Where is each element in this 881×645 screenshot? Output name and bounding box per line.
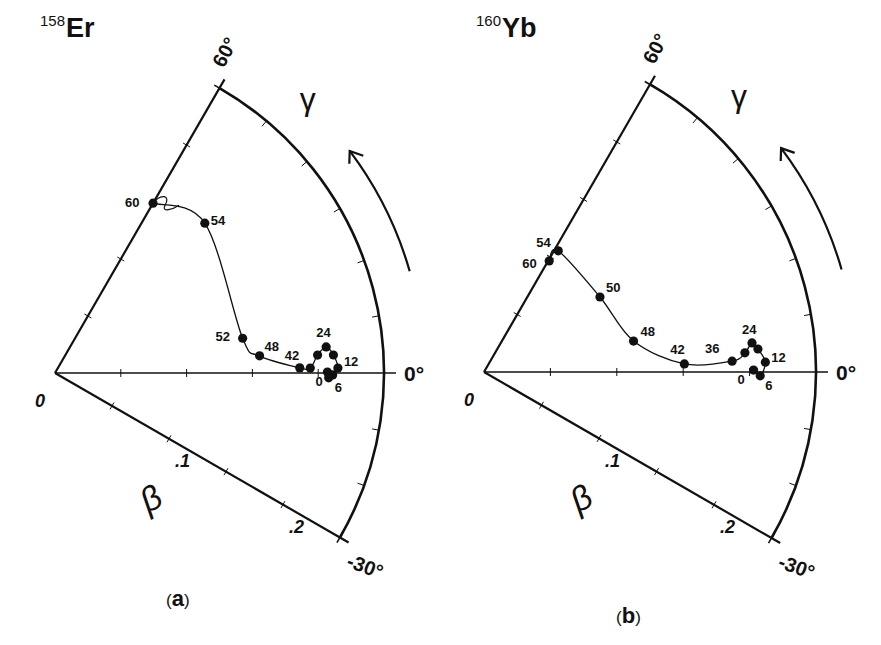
- gamma-direction-arrow: [781, 148, 841, 269]
- spin-label: 12: [344, 354, 358, 369]
- origin-label: 0: [35, 391, 45, 411]
- data-point: [322, 342, 331, 351]
- spin-label: 48: [265, 339, 279, 354]
- outer-arc: [220, 88, 385, 537]
- beta-tick-label: .2: [289, 517, 304, 537]
- beta-tick-label: .1: [175, 451, 190, 471]
- gamma-tick: [789, 483, 796, 485]
- spin-label: 24: [742, 322, 757, 337]
- gamma-axis-symbol: γ: [731, 78, 747, 114]
- data-point: [545, 256, 554, 265]
- data-point: [554, 246, 563, 255]
- trajectory-curve: [153, 203, 338, 378]
- gamma-minus30-label: -30°: [344, 550, 386, 583]
- data-point: [148, 199, 157, 208]
- gamma-0-label: 0°: [404, 362, 424, 385]
- spin-label: 42: [670, 342, 684, 357]
- spin-label: 54: [536, 235, 551, 250]
- gamma-tick: [765, 206, 771, 210]
- gamma-minus30-label: -30°: [776, 550, 818, 583]
- data-point: [629, 336, 638, 345]
- gamma-60-label: 60°: [638, 30, 672, 67]
- gamma--30-axis: [484, 372, 780, 543]
- gamma-60-axis: [484, 76, 655, 372]
- data-point: [727, 357, 736, 366]
- spin-label: 50: [606, 280, 620, 295]
- data-point: [306, 363, 315, 372]
- spin-label: 12: [771, 350, 785, 365]
- spin-label: 36: [705, 341, 719, 356]
- gamma-tick: [733, 159, 738, 163]
- gamma-tick: [302, 162, 307, 166]
- spin-label: 0: [315, 374, 322, 389]
- data-point: [595, 292, 604, 301]
- beta-tick-label: .1: [605, 451, 620, 471]
- data-point: [255, 351, 264, 360]
- polar-panel-b: 060°0°-30°.1.2βγ061224364248505460: [464, 30, 856, 584]
- polar-plots: 060°0°-30°.1.2βγ0612244248525460060°0°-3…: [0, 0, 881, 645]
- gamma-tick: [358, 260, 365, 262]
- spin-label: 6: [335, 380, 342, 395]
- gamma-0-label: 0°: [836, 361, 856, 384]
- spin-label: 48: [641, 324, 655, 339]
- spin-label: 24: [316, 325, 331, 340]
- gamma-tick: [262, 121, 266, 126]
- gamma-60-label: 60°: [208, 34, 242, 71]
- beta-axis-symbol: β: [132, 477, 169, 520]
- data-point: [313, 350, 322, 359]
- data-point: [756, 371, 765, 380]
- data-point: [200, 219, 209, 228]
- data-point: [329, 350, 338, 359]
- data-point: [333, 363, 342, 372]
- data-point: [238, 334, 247, 343]
- spin-label: 54: [211, 213, 226, 228]
- spin-label: 60: [125, 195, 139, 210]
- origin-label: 0: [464, 390, 474, 410]
- gamma--30-axis: [55, 373, 349, 543]
- gamma-tick: [358, 483, 365, 485]
- spin-label: 0: [738, 372, 745, 387]
- spin-label: 42: [285, 348, 299, 363]
- spin-label: 60: [522, 256, 536, 271]
- data-point: [761, 358, 770, 367]
- gamma-tick: [693, 118, 697, 123]
- gamma-tick: [334, 209, 340, 213]
- spin-label: 6: [765, 378, 772, 393]
- polar-panel-a: 060°0°-30°.1.2βγ0612244248525460: [35, 34, 424, 583]
- gamma-axis-symbol: γ: [300, 81, 316, 117]
- beta-axis-symbol: β: [562, 477, 599, 520]
- data-point: [680, 359, 689, 368]
- data-point: [295, 363, 304, 372]
- gamma-direction-arrow: [350, 151, 410, 271]
- gamma-60-axis: [55, 79, 225, 373]
- gamma-tick: [789, 258, 796, 260]
- beta-tick-label: .2: [720, 517, 735, 537]
- figure: 158Er 160Yb (a) (b) 060°0°-30°.1.2βγ0612…: [0, 0, 881, 645]
- data-point: [747, 338, 756, 347]
- data-point: [740, 348, 749, 357]
- spin-label: 52: [216, 329, 230, 344]
